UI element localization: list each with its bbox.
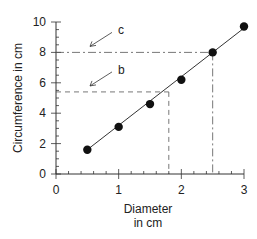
x-tick-label: 3 [241,183,248,197]
y-tick-label: 0 [39,167,46,181]
annotation-label-c: c [118,23,124,37]
annotation-label-b: b [118,63,125,77]
data-point [83,145,91,153]
y-tick-label: 4 [39,106,46,120]
best-fit-line [87,28,244,150]
x-tick-label: 1 [115,183,122,197]
y-tick-label: 10 [33,15,47,29]
data-point [146,100,154,108]
y-tick-label: 6 [39,76,46,90]
x-axis-title-unit: in cm [134,216,163,230]
data-point [177,76,185,84]
y-tick-label: 2 [39,137,46,151]
data-point [240,22,248,30]
x-tick-label: 2 [178,183,185,197]
y-axis-title: Circumference in cm [11,43,25,153]
x-tick-label: 0 [53,183,60,197]
data-point [114,123,122,131]
annotation-arrow-c [90,32,112,46]
scatter-chart: 02468100123Diameterin cmCircumference in… [0,0,257,239]
x-axis-title: Diameter [124,202,173,216]
annotation-arrow-b [90,72,112,86]
data-point [208,48,216,56]
y-tick-label: 8 [39,45,46,59]
